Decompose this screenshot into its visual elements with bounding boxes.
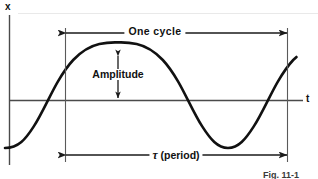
y-axis-label: x: [5, 2, 11, 12]
period-label-text: (period): [158, 149, 200, 161]
sine-curve: [5, 42, 297, 148]
x-axis-label: t: [306, 94, 309, 104]
sine-wave-figure: x t One cycle Amplitude τ (period) Fig. …: [0, 0, 318, 179]
one-cycle-label: One cycle: [124, 26, 185, 37]
amplitude-label: Amplitude: [90, 69, 145, 80]
period-label: τ (period): [149, 150, 202, 162]
figure-caption: Fig. 11-1: [263, 171, 299, 179]
